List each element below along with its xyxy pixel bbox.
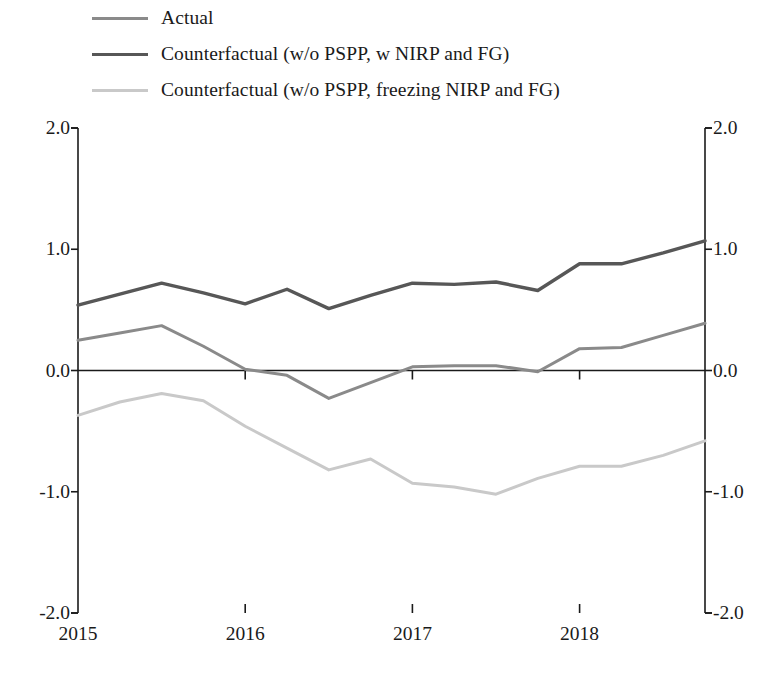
- series-line-actual: [78, 323, 705, 398]
- x-tick-label: 2017: [393, 624, 432, 644]
- series-line-counterfactual-w-o-pspp-freezing-nirp-and-fg: [78, 394, 705, 495]
- plot-area: 2.01.00.0-1.0-2.0 2.01.00.0-1.0-2.0 2015…: [0, 0, 779, 679]
- series-line-counterfactual-w-o-pspp-w-nirp-and-fg: [78, 241, 705, 309]
- y-tick-label-left: 2.0: [46, 118, 70, 138]
- y-tick-label-left: 0.0: [46, 361, 70, 381]
- chart-figure: Actual Counterfactual (w/o PSPP, w NIRP …: [0, 0, 779, 679]
- x-tick-label: 2018: [560, 624, 599, 644]
- plot-svg: [0, 0, 779, 679]
- y-tick-label-right: -2.0: [713, 603, 744, 623]
- y-tick-label-right: 2.0: [713, 118, 737, 138]
- y-tick-label-right: 0.0: [713, 361, 737, 381]
- y-tick-label-left: -2.0: [39, 603, 70, 623]
- y-tick-label-right: 1.0: [713, 240, 737, 260]
- y-tick-label-left: 1.0: [46, 240, 70, 260]
- series-layer: [78, 241, 705, 494]
- x-tick-label: 2015: [59, 624, 98, 644]
- x-tick-label: 2016: [226, 624, 265, 644]
- y-tick-label-left: -1.0: [39, 482, 70, 502]
- y-tick-label-right: -1.0: [713, 482, 744, 502]
